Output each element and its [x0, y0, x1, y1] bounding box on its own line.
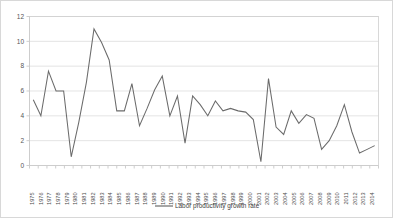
x-tick-label-2010: 2010	[334, 193, 340, 205]
x-tick-label-1975: 1975	[29, 193, 35, 205]
x-tick-label-2012: 2012	[352, 193, 358, 205]
y-tick-label-10: 10	[17, 38, 25, 45]
x-tick-label-1980: 1980	[72, 193, 78, 205]
x-tick-label-1986: 1986	[125, 193, 131, 205]
x-tick-label-2011: 2011	[343, 193, 349, 205]
y-tick-label-0: 0	[20, 162, 24, 169]
x-tick-label-1985: 1985	[116, 193, 122, 205]
series-line-labor-productivity-growth-rate	[33, 29, 374, 162]
x-tick-label-2014: 2014	[369, 193, 375, 205]
x-tick-label-1983: 1983	[99, 193, 105, 205]
x-tick-label-2009: 2009	[326, 193, 332, 205]
legend-label-labor-productivity-growth-rate: Labor productivity growth rate	[175, 202, 260, 210]
x-tick-label-1991: 1991	[168, 193, 174, 205]
y-tick-label-4: 4	[20, 112, 24, 119]
x-tick-label-2013: 2013	[360, 193, 366, 205]
y-axis-tick-labels: 024681012	[17, 13, 25, 169]
x-tick-label-1989: 1989	[151, 193, 157, 205]
x-tick-label-1978: 1978	[55, 193, 61, 205]
x-tick-label-2003: 2003	[273, 193, 279, 205]
x-tick-label-1981: 1981	[81, 193, 87, 205]
x-tick-label-2008: 2008	[317, 193, 323, 205]
x-axis-tickmarks	[30, 166, 379, 169]
line-chart-plot: 024681012 197519761977197819791980198119…	[1, 1, 393, 218]
x-tick-label-2002: 2002	[264, 193, 270, 205]
x-tick-label-1990: 1990	[160, 193, 166, 205]
x-tick-label-1982: 1982	[90, 193, 96, 205]
y-tick-label-2: 2	[20, 137, 24, 144]
x-tick-label-1976: 1976	[38, 193, 44, 205]
x-tick-label-2004: 2004	[282, 193, 288, 205]
y-tick-label-8: 8	[20, 62, 24, 69]
y-tick-label-6: 6	[20, 87, 24, 94]
x-tick-label-1988: 1988	[142, 193, 148, 205]
chart-figure: 024681012 197519761977197819791980198119…	[0, 0, 393, 218]
y-tick-label-12: 12	[17, 13, 25, 20]
x-tick-label-1987: 1987	[134, 193, 140, 205]
x-tick-label-1984: 1984	[107, 193, 113, 205]
x-tick-label-1977: 1977	[46, 193, 52, 205]
x-tick-label-2007: 2007	[308, 193, 314, 205]
x-tick-label-1979: 1979	[64, 193, 70, 205]
x-tick-label-2006: 2006	[299, 193, 305, 205]
gridlines-group	[27, 17, 379, 166]
x-tick-label-2005: 2005	[291, 193, 297, 205]
